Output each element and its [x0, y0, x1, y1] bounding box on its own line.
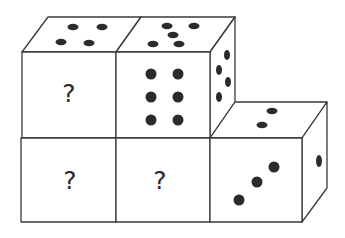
unknown-bottom-left: ?: [63, 166, 76, 195]
bottom-right-right-pip: [316, 155, 322, 167]
die-top-middle-front-face: [116, 52, 210, 138]
unknown-top-left: ?: [62, 79, 75, 108]
dice-diagram: ? ? ?: [0, 0, 345, 238]
unknown-bottom-middle: ?: [153, 166, 166, 195]
